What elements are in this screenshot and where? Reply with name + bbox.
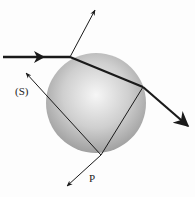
label-p: P xyxy=(89,172,95,184)
exit-ray xyxy=(143,87,188,126)
diagram-canvas: (S) P xyxy=(0,0,195,197)
ray-P xyxy=(67,155,101,186)
label-s: (S) xyxy=(15,85,28,97)
ray-diagram xyxy=(0,0,195,197)
reflected-ray xyxy=(70,10,95,57)
